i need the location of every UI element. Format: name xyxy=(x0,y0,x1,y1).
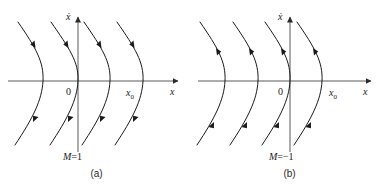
condition-label-b: M=−1 xyxy=(268,151,294,162)
trajectory-curves-b xyxy=(197,22,322,145)
trajectory-curve xyxy=(82,22,110,145)
flow-arrow-icon xyxy=(311,47,319,56)
condition-label-value-b: −1 xyxy=(283,151,294,162)
panel-b: ẋ x 0 x0 M=−1 xyxy=(193,0,386,165)
trajectory-curve xyxy=(50,22,78,145)
flow-arrow-icon xyxy=(97,114,105,123)
flow-arrow-icon xyxy=(130,114,138,123)
x-axis-label-b: x xyxy=(362,86,368,97)
x0-label-b: x0 xyxy=(328,87,337,101)
condition-label-a: M=1 xyxy=(62,151,82,162)
flow-arrow-icon xyxy=(247,47,255,56)
panel-a: ẋ x 0 x0 M=1 xyxy=(0,0,193,165)
flow-arrow-icon xyxy=(279,47,287,56)
condition-label-value-a: 1 xyxy=(77,151,82,162)
panel-caption-b: (b) xyxy=(193,168,386,179)
y-axis-label-a: ẋ xyxy=(65,11,71,22)
origin-label-b: 0 xyxy=(278,86,283,97)
flow-arrow-icon xyxy=(30,114,38,123)
flow-arrow-icon xyxy=(65,114,73,123)
x-axis-label-a: x xyxy=(169,86,175,97)
y-axis-label-b: ẋ xyxy=(277,11,283,22)
x0-label-sub-b: 0 xyxy=(333,93,337,101)
x0-label-sub-a: 0 xyxy=(130,93,134,101)
origin-label-a: 0 xyxy=(66,86,71,97)
flow-arrow-icon xyxy=(214,47,222,56)
flow-arrows-a xyxy=(30,41,139,124)
trajectory-curves-a xyxy=(15,22,143,145)
trajectory-curve xyxy=(115,22,143,145)
panel-caption-a: (a) xyxy=(0,168,193,179)
figure-root: ẋ x 0 x0 M=1 xyxy=(0,0,386,192)
trajectory-curve xyxy=(15,22,43,145)
flow-arrows-b xyxy=(208,47,318,130)
x0-label-a: x0 xyxy=(125,87,134,101)
